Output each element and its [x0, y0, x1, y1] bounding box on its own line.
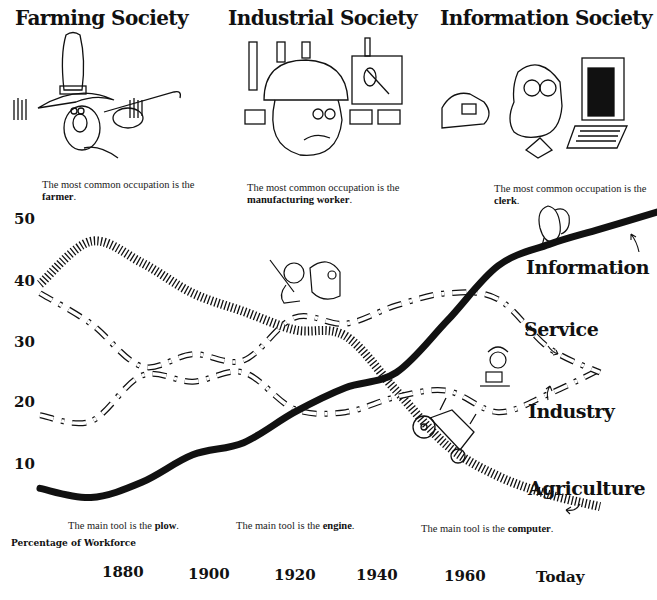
- x-tick-1960: 1960: [444, 567, 486, 585]
- x-tick-1940: 1940: [356, 566, 398, 584]
- tool-caption-engine: The main tool is the engine.: [236, 520, 354, 531]
- x-tick-today: Today: [536, 568, 584, 586]
- series-agriculture-line: [40, 241, 600, 507]
- y-tick-50: 50: [14, 210, 35, 228]
- y-axis-label: Percentage of Workforce: [11, 538, 136, 549]
- industrial-occupation-caption: The most common occupation is the manufa…: [247, 182, 417, 206]
- series-label-agriculture: Agriculture: [528, 477, 645, 499]
- series-label-information: Information: [526, 256, 649, 278]
- y-tick-20: 20: [14, 393, 35, 411]
- occupation-clerk: clerk: [494, 195, 517, 206]
- series-label-industry: Industry: [528, 400, 614, 422]
- y-tick-30: 30: [14, 333, 35, 351]
- farmer-illustration: [14, 33, 180, 159]
- information-society-title: Information Society: [440, 6, 652, 30]
- tool-caption-computer: The main tool is the computer.: [421, 523, 553, 534]
- tractor-illustration: [413, 398, 476, 463]
- occupation-manufacturing-worker: manufacturing worker: [247, 194, 349, 205]
- clerk-at-computer-illustration: [442, 58, 627, 158]
- industrial-society-title: Industrial Society: [228, 6, 417, 30]
- farming-occupation-caption: The most common occupation is the farmer…: [42, 179, 212, 203]
- series-label-service: Service: [524, 318, 598, 340]
- y-tick-10: 10: [14, 455, 35, 473]
- x-tick-1900: 1900: [188, 565, 230, 583]
- y-tick-40: 40: [14, 272, 35, 290]
- tool-caption-plow: The main tool is the plow.: [68, 520, 179, 531]
- factory-worker-illustration: [245, 38, 402, 155]
- x-tick-1920: 1920: [274, 566, 316, 584]
- worker-with-engine-illustration: [270, 260, 340, 303]
- service-worker-illustration: [480, 347, 510, 386]
- occupation-farmer: farmer: [42, 191, 73, 202]
- workforce-line-chart: [0, 0, 657, 600]
- information-occupation-caption: The most common occupation is the clerk.: [494, 183, 657, 207]
- x-tick-1880: 1880: [102, 563, 144, 581]
- farming-society-title: Farming Society: [15, 6, 188, 30]
- series-service-line: [40, 292, 600, 372]
